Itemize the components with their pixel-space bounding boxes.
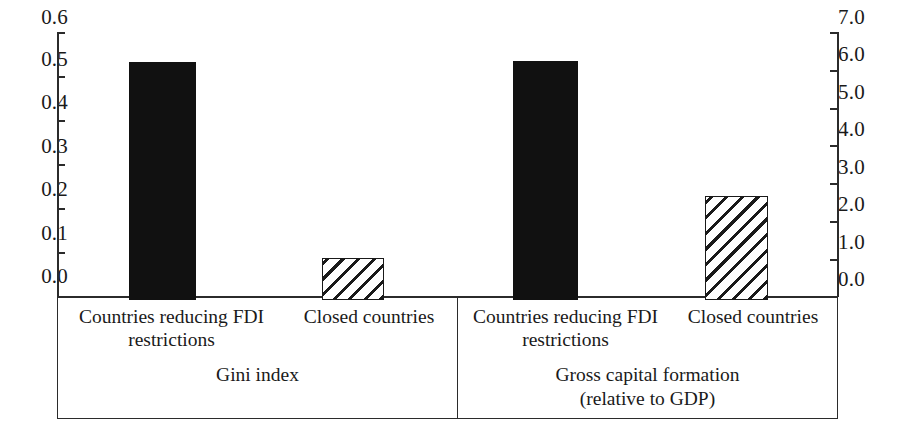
group-title-gini-index: Gini index — [58, 363, 457, 387]
category-label-panel2-countries-reducing-fdi: Countries reducing FDI restrictions — [458, 305, 673, 351]
category-label-panel1-closed-countries: Closed countries — [284, 305, 454, 328]
category-label-box: Countries reducing FDI restrictions Clos… — [57, 297, 838, 419]
plot-area — [0, 0, 903, 300]
bar-gini-countries-reducing-fdi-restrictions[interactable] — [129, 62, 196, 300]
panel-gross-capital-formation: Countries reducing FDI restrictions Clos… — [458, 297, 837, 418]
category-label-panel1-countries-reducing-fdi: Countries reducing FDI restrictions — [64, 305, 279, 351]
group-title-gross-capital-formation: Gross capital formation (relative to GDP… — [458, 363, 837, 411]
bar-gcf-countries-reducing-fdi-restrictions[interactable] — [513, 61, 578, 300]
panel-gini: Countries reducing FDI restrictions Clos… — [58, 297, 458, 418]
bar-gini-closed-countries[interactable] — [322, 258, 384, 300]
chart-figure: 0.6 0.5 0.4 0.3 0.2 0.1 0.0 7.0 6.0 5.0 … — [0, 0, 903, 434]
category-label-panel2-closed-countries: Closed countries — [670, 305, 836, 328]
bar-gcf-closed-countries[interactable] — [705, 196, 768, 300]
